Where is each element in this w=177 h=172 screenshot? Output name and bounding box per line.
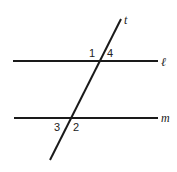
label-m: m	[161, 111, 170, 125]
line-t-transversal	[50, 19, 121, 160]
angle-3-label: 3	[54, 121, 60, 133]
diagram-canvas: t ℓ m 1 4 3 2	[0, 0, 177, 172]
angle-1-label: 1	[89, 47, 95, 59]
label-t: t	[124, 13, 128, 27]
angle-4-label: 4	[107, 47, 113, 59]
label-l: ℓ	[161, 55, 166, 69]
parallel-lines-diagram: t ℓ m 1 4 3 2	[0, 0, 177, 172]
angle-2-label: 2	[73, 121, 79, 133]
